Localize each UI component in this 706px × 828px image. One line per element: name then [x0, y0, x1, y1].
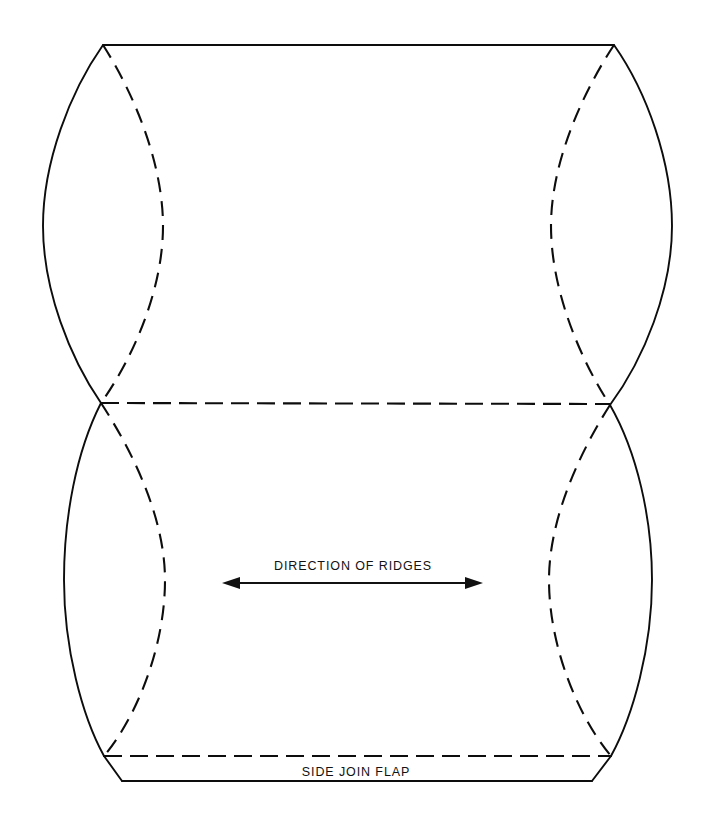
diagram-background	[0, 0, 706, 828]
dieline-drawing: DIRECTION OF RIDGES SIDE JOIN FLAP	[0, 0, 706, 828]
side-join-flap-label: SIDE JOIN FLAP	[302, 765, 410, 779]
dieline-diagram-canvas: DIRECTION OF RIDGES SIDE JOIN FLAP	[0, 0, 706, 828]
direction-of-ridges-label: DIRECTION OF RIDGES	[274, 559, 432, 573]
